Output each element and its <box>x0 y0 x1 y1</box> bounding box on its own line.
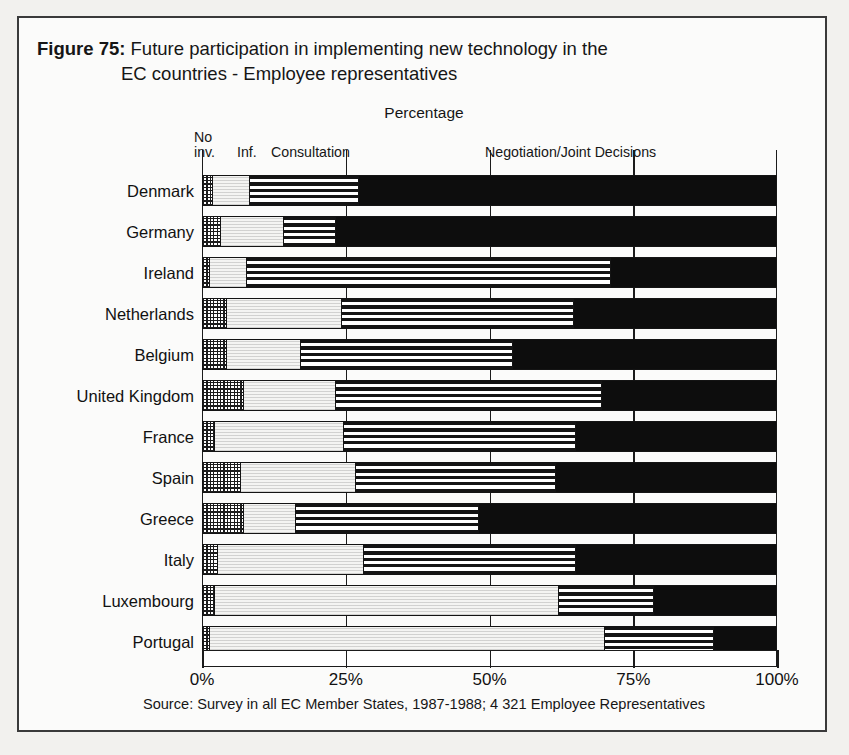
stacked-bar <box>202 585 777 616</box>
bar-segment-consultation <box>355 463 556 492</box>
bar-segment-inf <box>226 299 341 328</box>
bar-row: Belgium <box>19 339 829 373</box>
bar-segment-negotiation-joint-decisions <box>555 463 776 492</box>
bar-segment-consultation <box>335 381 601 410</box>
bar-segment-consultation <box>246 258 610 287</box>
bar-segment-negotiation-joint-decisions <box>512 340 776 369</box>
stacked-bar <box>202 339 777 370</box>
stacked-bar <box>202 544 777 575</box>
bar-segment-no-inv <box>203 381 243 410</box>
bar-segment-no-inv <box>203 463 240 492</box>
bar-segment-no-inv <box>203 299 226 328</box>
category-label: Denmark <box>127 182 194 201</box>
bar-segment-no-inv <box>203 545 217 574</box>
bar-segment-consultation <box>295 504 478 533</box>
bar-segment-negotiation-joint-decisions <box>610 258 776 287</box>
stacked-bar <box>202 380 777 411</box>
category-label: Netherlands <box>105 305 194 324</box>
bar-row: Greece <box>19 503 829 537</box>
axis-tick-label: 0% <box>190 670 215 690</box>
axis-tick <box>490 650 492 668</box>
stacked-bar <box>202 216 777 247</box>
bar-segment-inf <box>214 586 558 615</box>
category-label: Germany <box>126 223 194 242</box>
bar-segment-inf <box>214 422 343 451</box>
category-label: Luxembourg <box>102 592 194 611</box>
axis-tick-label: 50% <box>472 670 506 690</box>
figure-frame: Figure 75: Future participation in imple… <box>17 16 827 732</box>
stacked-bar <box>202 175 777 206</box>
chart-plot-area: DenmarkGermanyIrelandNetherlandsBelgiumU… <box>19 18 829 734</box>
bar-segment-consultation <box>300 340 512 369</box>
axis-tick-label: 100% <box>755 670 798 690</box>
axis-tick-label: 25% <box>329 670 363 690</box>
category-label: France <box>143 428 194 447</box>
bar-segment-no-inv <box>203 340 226 369</box>
bar-segment-no-inv <box>203 217 220 246</box>
bar-segment-negotiation-joint-decisions <box>573 299 776 328</box>
category-label: Portugal <box>133 633 194 652</box>
category-label: Italy <box>164 551 194 570</box>
bar-row: Luxembourg <box>19 585 829 619</box>
axis-tick <box>633 650 635 668</box>
bar-segment-inf <box>243 504 295 533</box>
stacked-bar <box>202 503 777 534</box>
bar-row: Netherlands <box>19 298 829 332</box>
category-label: Greece <box>140 510 194 529</box>
bar-segment-inf <box>209 258 246 287</box>
bar-segment-consultation <box>363 545 575 574</box>
bar-segment-negotiation-joint-decisions <box>478 504 776 533</box>
bar-row: Italy <box>19 544 829 578</box>
axis-tick-label: 75% <box>616 670 650 690</box>
bar-segment-inf <box>217 545 363 574</box>
bar-segment-no-inv <box>203 586 214 615</box>
bar-segment-inf <box>243 381 335 410</box>
bar-segment-no-inv <box>203 176 212 205</box>
bar-segment-negotiation-joint-decisions <box>653 586 776 615</box>
category-label: Spain <box>152 469 194 488</box>
bar-row: Denmark <box>19 175 829 209</box>
bar-row: United Kingdom <box>19 380 829 414</box>
bar-row: Germany <box>19 216 829 250</box>
bar-segment-consultation <box>283 217 335 246</box>
bar-segment-consultation <box>249 176 358 205</box>
bar-segment-negotiation-joint-decisions <box>575 422 776 451</box>
source-note: Source: Survey in all EC Member States, … <box>19 696 829 712</box>
bar-segment-inf <box>212 176 249 205</box>
axis-tick <box>346 650 348 668</box>
figure-page: Figure 75: Future participation in imple… <box>0 0 849 755</box>
axis-tick <box>202 650 204 668</box>
bar-segment-consultation <box>343 422 575 451</box>
bar-segment-inf <box>240 463 355 492</box>
bar-segment-inf <box>220 217 283 246</box>
bar-segment-consultation <box>558 586 653 615</box>
bar-segment-negotiation-joint-decisions <box>601 381 776 410</box>
bar-row: Ireland <box>19 257 829 291</box>
bar-row: France <box>19 421 829 455</box>
stacked-bar <box>202 421 777 452</box>
stacked-bar <box>202 298 777 329</box>
bar-row: Spain <box>19 462 829 496</box>
category-label: United Kingdom <box>77 387 194 406</box>
bar-segment-inf <box>226 340 300 369</box>
category-label: Ireland <box>144 264 194 283</box>
stacked-bar <box>202 257 777 288</box>
bar-segment-negotiation-joint-decisions <box>575 545 776 574</box>
axis-tick <box>777 650 779 668</box>
stacked-bar <box>202 462 777 493</box>
bar-segment-consultation <box>341 299 573 328</box>
bar-segment-negotiation-joint-decisions <box>335 217 776 246</box>
bar-segment-no-inv <box>203 422 214 451</box>
category-label: Belgium <box>134 346 194 365</box>
bar-segment-no-inv <box>203 504 243 533</box>
bar-segment-negotiation-joint-decisions <box>358 176 776 205</box>
